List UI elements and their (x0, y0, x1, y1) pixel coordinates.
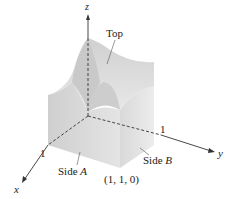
y-tick-one: 1 (160, 124, 166, 135)
y-axis (161, 135, 211, 151)
top-label: Top (106, 28, 123, 39)
side-b-label: Side B (143, 155, 172, 166)
side-a-label: Side A (58, 166, 87, 177)
y-axis-label: y (218, 148, 223, 159)
x-tick-one: 1 (40, 148, 46, 159)
corner-point-label: (1, 1, 0) (104, 174, 139, 185)
x-axis-label: x (14, 184, 19, 195)
z-axis-label: z (85, 2, 89, 12)
z-arrow-icon (86, 14, 90, 20)
y-arrow-icon (208, 148, 215, 153)
